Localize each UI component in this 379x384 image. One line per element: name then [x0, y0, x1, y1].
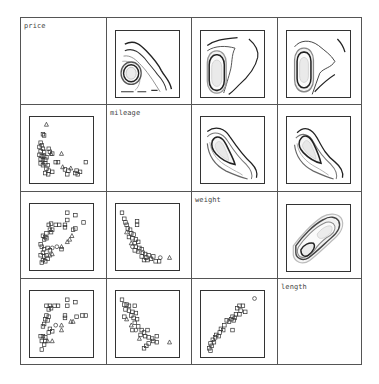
data-point-square: [84, 160, 88, 164]
data-point-square: [143, 334, 147, 338]
data-point-square: [154, 260, 158, 264]
data-point-square: [60, 247, 64, 251]
data-point-square: [40, 348, 44, 352]
data-point-triangle: [65, 240, 69, 244]
data-point-square: [147, 336, 151, 340]
data-point-square: [212, 340, 216, 344]
scatter-plot: [30, 117, 93, 183]
plot-area: [286, 204, 351, 272]
data-point-square: [44, 336, 48, 340]
data-point-triangle: [61, 165, 65, 169]
data-point-triangle: [50, 339, 54, 343]
data-point-square: [84, 314, 88, 318]
data-point-square: [223, 323, 227, 327]
data-point-square: [149, 257, 153, 261]
data-point-square: [49, 230, 53, 234]
data-point-square: [211, 338, 215, 342]
data-point-square: [50, 330, 54, 334]
scatter-plot: [30, 204, 93, 270]
data-point-square: [131, 328, 135, 332]
data-point-square: [63, 168, 67, 172]
data-point-square: [45, 304, 49, 308]
plot-area: [29, 290, 94, 358]
plot-area: [115, 30, 180, 98]
scatter-panel-mileage-weight: [107, 192, 191, 278]
data-point-square: [81, 314, 85, 318]
scatter-panel-weight-length: [192, 279, 277, 365]
data-point-square: [145, 344, 149, 348]
data-point-square: [42, 154, 46, 158]
data-point-square: [120, 298, 124, 302]
diagonal-cell-length: length: [278, 279, 363, 365]
scatter-plot: [30, 291, 93, 357]
data-point-square: [44, 317, 48, 321]
data-point-square: [135, 223, 139, 227]
data-point-square: [136, 325, 140, 329]
data-point-square: [42, 255, 46, 259]
data-point-square: [75, 315, 79, 319]
data-point-square: [40, 245, 44, 249]
data-point-square: [71, 228, 75, 232]
data-point-square: [74, 171, 78, 175]
data-point-square: [82, 221, 86, 225]
data-point-square: [45, 314, 49, 318]
contour-panel-mileage-price: [107, 18, 191, 104]
plot-area: [29, 203, 94, 271]
data-point-circle: [131, 245, 135, 249]
data-point-square: [39, 253, 43, 257]
data-point-square: [231, 328, 235, 332]
data-point-square: [63, 314, 67, 318]
data-point-triangle: [44, 122, 48, 126]
data-point-square: [230, 317, 234, 321]
contour-panel-length-price: [278, 18, 363, 104]
data-point-square: [131, 310, 135, 314]
data-point-triangle: [59, 323, 63, 327]
data-point-square: [142, 347, 146, 351]
data-point-square: [157, 260, 161, 264]
data-point-circle: [55, 245, 59, 249]
contour-panel-length-weight: [278, 192, 363, 278]
data-point-square: [241, 304, 245, 308]
variable-label: weight: [195, 196, 221, 204]
data-point-square: [238, 313, 242, 317]
data-point-square: [54, 223, 58, 227]
data-point-square: [127, 309, 131, 313]
contour-plot: [116, 31, 179, 97]
data-point-square: [140, 247, 144, 251]
data-point-square: [239, 309, 243, 313]
data-point-square: [56, 304, 60, 308]
data-point-square: [231, 315, 235, 319]
contour-plot: [201, 31, 264, 97]
plot-area: [200, 116, 265, 184]
scatter-panel-price-length: [21, 279, 106, 365]
data-point-square: [155, 334, 159, 338]
data-point-square: [208, 347, 212, 351]
data-point-square: [209, 342, 213, 346]
data-point-square: [44, 260, 48, 264]
plot-area: [115, 290, 180, 358]
data-point-square: [42, 322, 46, 326]
data-point-square: [146, 328, 150, 332]
data-point-square: [127, 235, 131, 239]
data-point-square: [48, 249, 52, 253]
data-point-square: [40, 261, 44, 265]
data-point-square: [135, 317, 139, 321]
data-point-square: [150, 337, 154, 341]
data-point-square: [152, 339, 156, 343]
data-point-square: [124, 308, 128, 312]
plot-area: [286, 116, 351, 184]
contour-panel-length-mileage: [278, 105, 363, 191]
data-point-square: [50, 170, 54, 174]
data-point-square: [133, 241, 137, 245]
data-point-square: [66, 218, 70, 222]
data-point-square: [66, 173, 70, 177]
data-point-square: [140, 328, 144, 332]
variable-label: price: [24, 22, 46, 30]
contour-panel-weight-price: [192, 18, 277, 104]
contour-plot: [287, 117, 350, 183]
data-point-triangle: [125, 317, 129, 321]
data-point-square: [39, 141, 43, 145]
data-point-square: [133, 321, 137, 325]
data-point-square: [42, 238, 46, 242]
data-point-square: [41, 251, 45, 255]
